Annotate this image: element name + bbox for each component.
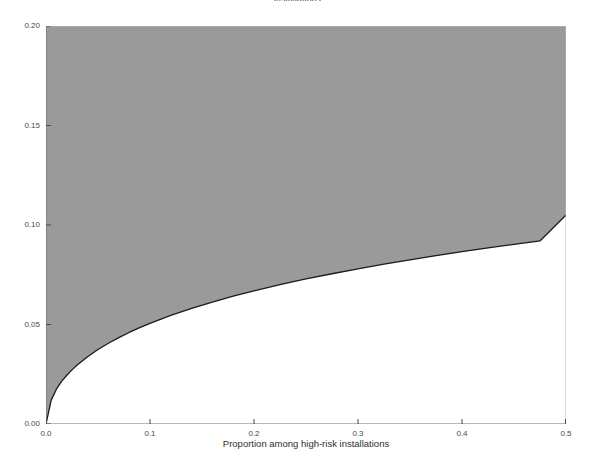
x-tick-label: 0.2 xyxy=(237,430,271,438)
y-tick-label: 0.10 xyxy=(6,221,40,229)
x-tick-label: 0.3 xyxy=(341,430,375,438)
x-axis-label: Proportion among high-risk installations xyxy=(46,438,566,449)
x-tick-label: 0.4 xyxy=(445,430,479,438)
figure-container: installations Detectable differences wit… xyxy=(0,0,595,472)
y-tick-label: 0.00 xyxy=(6,420,40,428)
y-tick-label: 0.15 xyxy=(6,122,40,130)
y-tick-label: 0.20 xyxy=(6,22,40,30)
y-tick-label: 0.05 xyxy=(6,321,40,329)
x-tick-label: 0.5 xyxy=(549,430,583,438)
figure-title: installations xyxy=(0,0,595,1)
plot-area xyxy=(46,26,566,424)
x-tick-label: 0.0 xyxy=(29,430,63,438)
chart-svg xyxy=(46,26,566,424)
x-tick-label: 0.1 xyxy=(133,430,167,438)
